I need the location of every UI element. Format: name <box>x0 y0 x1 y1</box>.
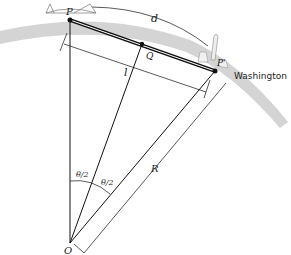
point-P <box>68 18 73 23</box>
label-O: O <box>64 245 72 255</box>
label-P: P <box>65 6 73 17</box>
label-Q: Q <box>146 51 154 61</box>
point-P-prime <box>213 69 218 74</box>
label-P-prime: P' <box>216 58 226 68</box>
label-theta-half-right: θ/2 <box>101 178 114 187</box>
label-washington: Washington <box>234 71 287 81</box>
label-d: d <box>151 12 158 25</box>
radius-OP-prime <box>70 71 215 243</box>
label-theta-half-left: θ/2 <box>76 170 89 179</box>
label-R: R <box>150 163 159 174</box>
radius-OQ <box>70 44 142 243</box>
point-Q <box>140 42 144 46</box>
label-l: l <box>124 66 128 79</box>
tunnel-diagram: P Q P' d l R O θ/2 θ/2 Washington <box>0 0 291 255</box>
